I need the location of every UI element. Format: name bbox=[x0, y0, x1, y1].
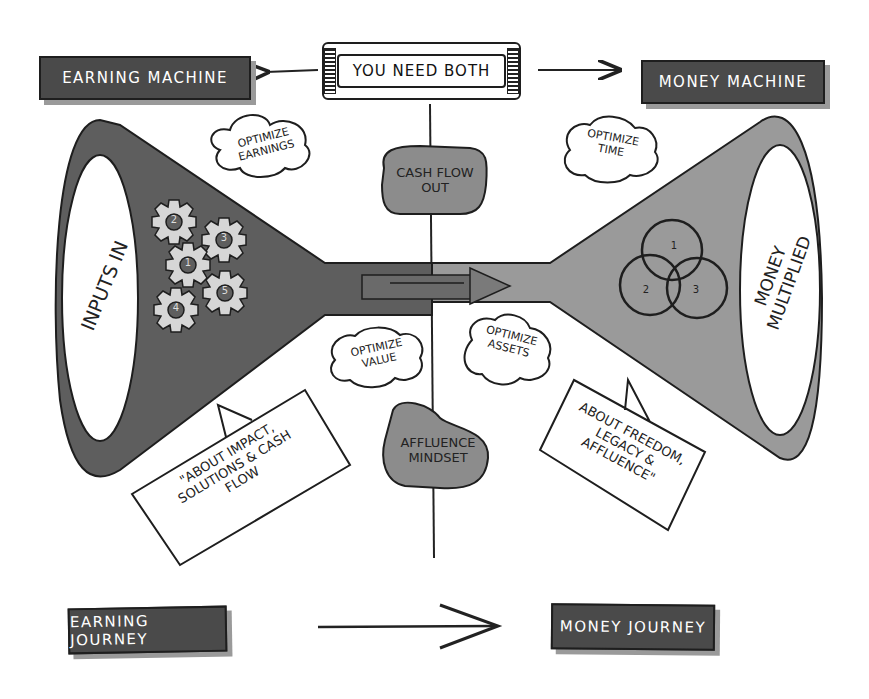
earning-machine-label: Earning Machine bbox=[39, 56, 251, 100]
gear-number: 2 bbox=[168, 214, 180, 226]
cash-flow-out-text: Cash flow out bbox=[392, 166, 478, 196]
arrow-to-earning-machine bbox=[266, 70, 318, 72]
banner-end-right bbox=[507, 48, 519, 94]
money-journey-label: Money Journey bbox=[551, 603, 715, 650]
circle-number: 2 bbox=[640, 284, 652, 296]
you-need-both-banner: You need both bbox=[322, 42, 521, 100]
diagram-canvas bbox=[0, 0, 869, 699]
money-machine-text: Money Machine bbox=[659, 73, 808, 91]
gear-number: 1 bbox=[182, 257, 194, 269]
banner-end-left bbox=[324, 48, 336, 94]
gear-number: 5 bbox=[219, 285, 231, 297]
banner-text: You need both bbox=[337, 54, 507, 88]
money-journey-text: Money Journey bbox=[560, 617, 707, 636]
earning-machine-text: Earning Machine bbox=[62, 69, 228, 87]
journey-arrow bbox=[318, 605, 498, 648]
affluence-mindset-text: Affluence mindset bbox=[392, 436, 484, 466]
earning-journey-label: Earning Journey bbox=[68, 606, 228, 655]
earning-journey-text: Earning Journey bbox=[70, 611, 226, 650]
money-machine-label: Money Machine bbox=[641, 60, 825, 104]
circle-number: 3 bbox=[690, 284, 702, 296]
gear-number: 4 bbox=[170, 302, 182, 314]
circle-number: 1 bbox=[668, 240, 680, 252]
gear-number: 3 bbox=[218, 232, 230, 244]
